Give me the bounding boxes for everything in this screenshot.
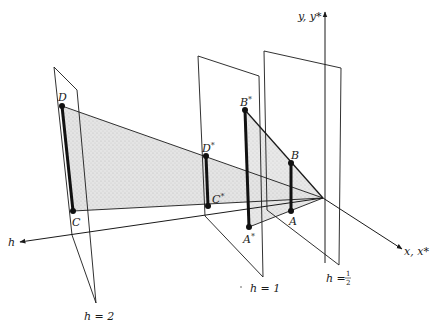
svg-text:2: 2 [346, 279, 350, 287]
svg-text:h =: h = [326, 272, 346, 285]
label-b: B [290, 149, 299, 162]
label-b-star: B* [239, 95, 252, 109]
stray-mark [240, 286, 242, 288]
h-axis-label: h [8, 236, 15, 249]
label-c: C [72, 216, 81, 229]
diagram-canvas: D C D* C* B* A* B A y, y* x, x* h h = 2 … [0, 0, 438, 331]
label-a-star: A* [242, 232, 255, 246]
point-a-star [246, 224, 252, 230]
segment-dc-star [206, 156, 208, 206]
perspective-diagram: D C D* C* B* A* B A y, y* x, x* h h = 2 … [0, 0, 438, 331]
label-d-star: D* [201, 141, 215, 155]
label-a: A [288, 215, 297, 228]
plane-h1-label: h = 1 [250, 282, 280, 295]
projection-pyramid-ba [245, 110, 323, 227]
point-a [288, 208, 294, 214]
plane-hhalf-label: h = 1 2 [326, 270, 351, 287]
label-d: D [57, 91, 67, 104]
y-axis-label: y, y* [297, 10, 322, 23]
point-c-star [205, 203, 211, 209]
x-axis [323, 198, 402, 249]
plane-h2-label: h = 2 [84, 310, 114, 323]
svg-text:1: 1 [346, 270, 350, 278]
point-c [70, 208, 76, 214]
x-axis-label: x, x* [404, 245, 429, 258]
label-c-star: C* [212, 192, 224, 206]
